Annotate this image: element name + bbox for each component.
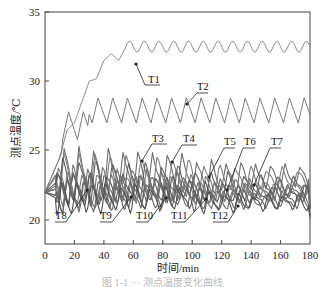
temperature-line-chart: 35 30 25 20 0 20 40 60 80 100 120 140 16…	[0, 0, 325, 287]
x-tick-20: 20	[69, 249, 81, 261]
x-tick-40: 40	[98, 249, 110, 261]
figure-caption: 图 1-1 ··· 测点温度变化曲线	[0, 274, 325, 287]
label-T1: T1	[148, 74, 160, 85]
label-T3: T3	[152, 133, 164, 144]
label-T10: T10	[136, 210, 153, 221]
x-axis	[74, 240, 280, 244]
x-tick-0: 0	[42, 249, 48, 261]
x-axis-title: 时间/min	[157, 262, 200, 274]
label-T4: T4	[183, 133, 195, 144]
label-T5: T5	[224, 136, 236, 147]
y-tick-25: 25	[29, 144, 41, 156]
label-T11: T11	[171, 210, 188, 221]
y-tick-20: 20	[29, 214, 41, 226]
x-tick-120: 120	[213, 249, 230, 261]
label-T9: T9	[100, 210, 112, 221]
series-layer	[45, 41, 310, 218]
y-tick-30: 30	[29, 75, 41, 87]
label-T7: T7	[271, 136, 283, 147]
label-T12: T12	[211, 210, 228, 221]
y-tick-labels: 35 30 25 20	[29, 6, 41, 226]
x-tick-80: 80	[157, 249, 169, 261]
y-tick-35: 35	[29, 6, 41, 18]
x-tick-60: 60	[128, 249, 140, 261]
label-T8: T8	[55, 210, 67, 221]
x-tick-140: 140	[243, 249, 260, 261]
x-tick-160: 160	[272, 249, 289, 261]
x-tick-labels: 0 20 40 60 80 100 120 140 160 180	[42, 249, 319, 261]
x-tick-100: 100	[184, 249, 201, 261]
label-T6: T6	[244, 136, 256, 147]
x-tick-180: 180	[302, 249, 319, 261]
y-axis-title: 测点温度/℃	[9, 98, 22, 157]
label-T2: T2	[197, 81, 209, 92]
